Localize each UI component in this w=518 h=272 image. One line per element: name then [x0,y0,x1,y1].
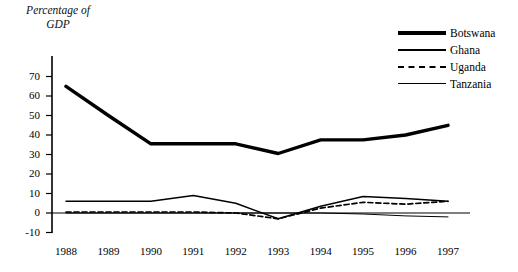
y-axis-tick-label: -10 [10,227,40,238]
y-axis-tick-label: 40 [10,129,40,140]
series-line-botswana [66,86,448,153]
chart-series [66,86,448,219]
x-axis-tick-label: 1995 [340,246,386,257]
legend-swatch-icon [398,45,446,55]
x-axis-tick-label: 1997 [425,246,471,257]
x-axis-tick-label: 1994 [298,246,344,257]
chart-legend: BotswanaGhanaUgandaTanzania [398,24,516,92]
legend-item-label: Botswana [446,27,495,39]
x-axis-tick-label: 1991 [170,246,216,257]
legend-swatch-icon [398,28,446,38]
x-axis-tick-label: 1992 [213,246,259,257]
y-axis-tick-label: 70 [10,71,40,82]
x-axis-tick-label: 1989 [85,246,131,257]
y-axis-tick-label: 30 [10,149,40,160]
y-axis-tick-label: 50 [10,110,40,121]
x-axis-tick-label: 1996 [383,246,429,257]
y-axis-tick-label: 0 [10,207,40,218]
chart-screenshot: Percentage of GDP -10010203040506070 198… [0,0,518,272]
legend-item-label: Uganda [446,61,486,73]
legend-swatch-icon [398,79,446,89]
legend-item-label: Tanzania [446,78,491,90]
y-axis-tick-label: 10 [10,188,40,199]
y-axis-tick-label: 60 [10,90,40,101]
x-axis-tick-label: 1990 [128,246,174,257]
legend-item-label: Ghana [446,44,480,56]
legend-swatch-icon [398,62,446,72]
y-axis-tick-label: 20 [10,168,40,179]
y-axis-ticks [46,77,52,233]
series-line-uganda [66,201,448,219]
x-axis-tick-label: 1993 [255,246,301,257]
legend-item-tanzania[interactable]: Tanzania [398,75,516,92]
legend-item-botswana[interactable]: Botswana [398,24,516,41]
legend-item-uganda[interactable]: Uganda [398,58,516,75]
legend-item-ghana[interactable]: Ghana [398,41,516,58]
x-axis-tick-label: 1988 [43,246,89,257]
